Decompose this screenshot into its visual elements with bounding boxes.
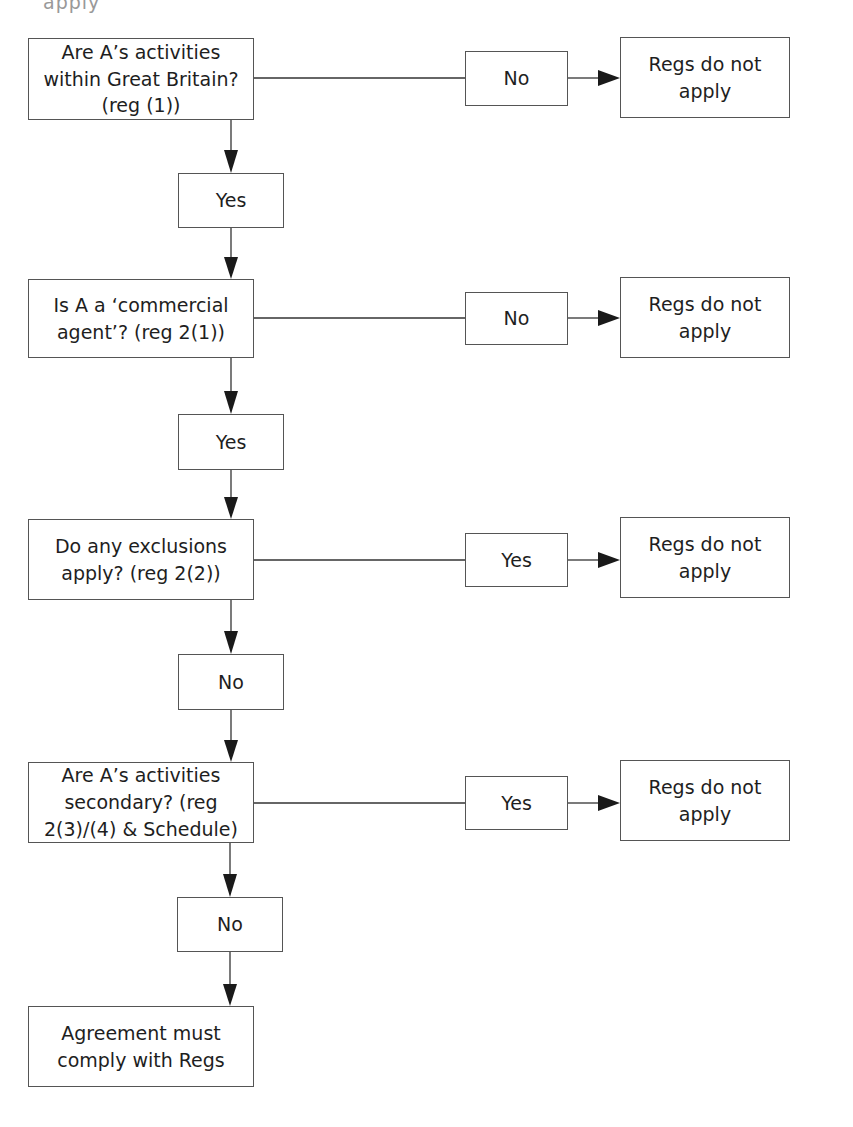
- final-outcome-box: Agreement must comply with Regs: [28, 1006, 254, 1087]
- continue-label-box: Yes: [178, 173, 284, 228]
- branch-label: Yes: [501, 790, 532, 817]
- outcome-text: Regs do not apply: [631, 531, 779, 585]
- continue-label: Yes: [216, 187, 247, 214]
- continue-label: No: [218, 669, 244, 696]
- question-text: Are A’s activities secondary? (reg 2(3)/…: [39, 762, 243, 843]
- outcome-box: Regs do not apply: [620, 760, 790, 841]
- question-box-exclusions: Do any exclusions apply? (reg 2(2)): [28, 519, 254, 600]
- question-text: Are A’s activities within Great Britain?…: [39, 39, 243, 120]
- final-outcome-text: Agreement must comply with Regs: [39, 1020, 243, 1074]
- continue-label: Yes: [216, 429, 247, 456]
- outcome-box: Regs do not apply: [620, 277, 790, 358]
- branch-label: No: [504, 305, 530, 332]
- outcome-text: Regs do not apply: [631, 291, 779, 345]
- continue-label-box: No: [178, 654, 284, 710]
- outcome-text: Regs do not apply: [631, 774, 779, 828]
- branch-label-box: Yes: [465, 533, 568, 587]
- outcome-box: Regs do not apply: [620, 517, 790, 598]
- question-text: Is A a ‘commercial agent’? (reg 2(1)): [39, 292, 243, 346]
- outcome-text: Regs do not apply: [631, 51, 779, 105]
- branch-label-box: No: [465, 51, 568, 106]
- branch-label: No: [504, 65, 530, 92]
- branch-label-box: Yes: [465, 776, 568, 830]
- question-box-commercial-agent: Is A a ‘commercial agent’? (reg 2(1)): [28, 279, 254, 358]
- continue-label: No: [217, 911, 243, 938]
- continue-label-box: Yes: [178, 414, 284, 470]
- question-text: Do any exclusions apply? (reg 2(2)): [39, 533, 243, 587]
- continue-label-box: No: [177, 897, 283, 952]
- branch-label-box: No: [465, 292, 568, 345]
- branch-label: Yes: [501, 547, 532, 574]
- question-box-great-britain: Are A’s activities within Great Britain?…: [28, 38, 254, 120]
- question-box-secondary-activities: Are A’s activities secondary? (reg 2(3)/…: [28, 762, 254, 843]
- outcome-box: Regs do not apply: [620, 37, 790, 118]
